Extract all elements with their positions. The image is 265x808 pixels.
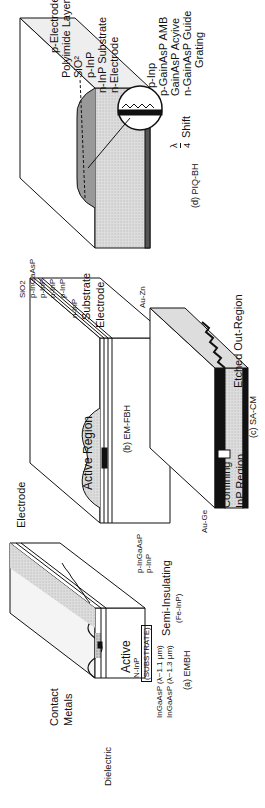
label-substrate: (SUBSTRATE): [141, 625, 152, 682]
label-ingaasp-13: InGaAsP (λ~1.3 μm): [165, 645, 174, 718]
label-n-inp-b2: n-InP: [70, 299, 79, 318]
label-polyimide: Polyimide Layer: [60, 0, 72, 78]
label-au-ge: Au-Ge: [200, 510, 209, 533]
label-p-inp-d: p-InP: [84, 52, 96, 78]
label-inset-grating: Grating: [193, 32, 205, 68]
label-inset-p-gainasp: p-GainAsP AMB: [157, 17, 169, 96]
label-dielectric: Dielectric: [102, 747, 113, 786]
label-confining-1: Confining: [220, 462, 232, 508]
figure-drawings: [0, 0, 265, 808]
label-electrode-top: Electrode: [15, 482, 27, 528]
caption-b: (b) EM-FBH: [122, 405, 132, 453]
label-contact-1: Contact: [48, 688, 60, 726]
label-electrode-bottom: Electrode: [94, 282, 106, 328]
label-inset-p-inp: p-Inp: [145, 63, 157, 88]
label-inset-guide: n-GainAsP Guide: [181, 11, 193, 96]
label-shift-num: λ: [168, 143, 179, 148]
label-shift-text: Shift: [180, 116, 192, 138]
label-n-inp-sub: n-InP Substrate: [96, 17, 108, 93]
label-p-ingaasp-b: p-InGaAsP: [28, 259, 37, 298]
label-au-zn: Au-Zn: [138, 286, 147, 308]
label-semi-insulating: Semi-Insulating: [160, 560, 172, 636]
label-p-ingaasp: p-InGaAsP: [135, 534, 144, 573]
caption-c: (c) SA-CM: [248, 396, 258, 438]
label-sio2: SiO2: [18, 280, 27, 298]
label-fe-inp: (Fe-InP): [174, 594, 183, 623]
caption-a: (a) EMBH: [182, 650, 192, 690]
label-shift-den: 4: [180, 143, 192, 148]
label-p-inp-b2: p-InP: [58, 279, 67, 298]
label-ingaasp-11: InGaAsP (λ~1.1 μm): [155, 645, 164, 718]
label-n-inp-b1: n-InP: [48, 279, 57, 298]
label-substrate-b: Substrate: [80, 273, 92, 320]
label-etched: Etched Out-Region: [232, 294, 244, 388]
label-contact-2: Metals: [62, 694, 74, 726]
label-inset-active: GainAsP Acyive: [169, 18, 181, 96]
label-active-region: Active Region: [82, 416, 94, 490]
figure-canvas: Dielectric Contact Metals Active N-InP (…: [0, 0, 265, 808]
label-p-inp-b1: p-InP: [38, 279, 47, 298]
caption-d: (d) PIQ-BH: [190, 163, 200, 208]
label-n-inp: N-InP: [132, 658, 141, 678]
label-confining-2: InP Region: [234, 454, 246, 508]
label-active: Active: [120, 640, 132, 673]
label-sio2-d: SiO²: [72, 56, 84, 78]
label-p-electrode: p-Electrode: [48, 0, 60, 53]
label-p-inp: p-InP: [144, 554, 153, 573]
label-n-electrode: n-Electrode: [108, 37, 120, 93]
